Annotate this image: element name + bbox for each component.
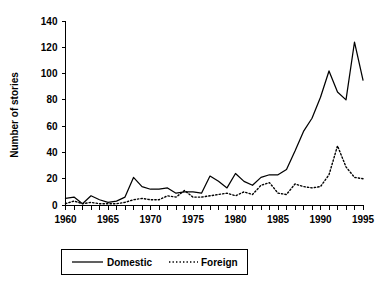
y-tick-label: 100 [41,68,58,79]
x-tick-label: 1980 [224,214,247,225]
y-tick-label: 20 [46,173,58,184]
x-tick-label: 1990 [309,214,332,225]
chart-legend: Domestic Foreign [62,250,248,275]
chart-figure: Number of stories 020406080100120140 196… [0,0,378,284]
y-tick-label: 0 [52,200,58,211]
x-tick-label: 1960 [54,214,77,225]
series-line-foreign [66,146,364,204]
x-tick-label: 1995 [352,214,375,225]
legend-label-domestic: Domestic [107,257,152,268]
x-tick-label: 1965 [97,214,120,225]
y-tick-label: 120 [41,42,58,53]
x-axis-ticks: 19601965197019751980198519901995 [54,205,374,225]
line-chart: Number of stories 020406080100120140 196… [0,0,378,284]
x-tick-label: 1975 [182,214,205,225]
y-axis-title: Number of stories [9,72,20,158]
y-tick-label: 80 [46,94,58,105]
x-tick-label: 1985 [267,214,290,225]
y-axis-ticks: 020406080100120140 [41,16,66,211]
y-tick-label: 140 [41,16,58,27]
legend-label-foreign: Foreign [201,257,238,268]
axes [66,21,364,206]
x-tick-label: 1970 [139,214,162,225]
y-tick-label: 60 [46,121,58,132]
series-line-domestic [66,42,364,204]
y-tick-label: 40 [46,147,58,158]
